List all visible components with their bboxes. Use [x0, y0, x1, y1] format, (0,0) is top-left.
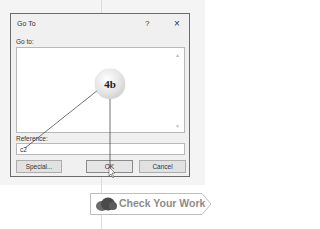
check-your-work-badge: Check Your Work [90, 193, 212, 215]
step-callout: 4b [95, 69, 125, 99]
mouse-cursor-icon [109, 167, 115, 178]
badge-label: Check Your Work [119, 197, 205, 209]
